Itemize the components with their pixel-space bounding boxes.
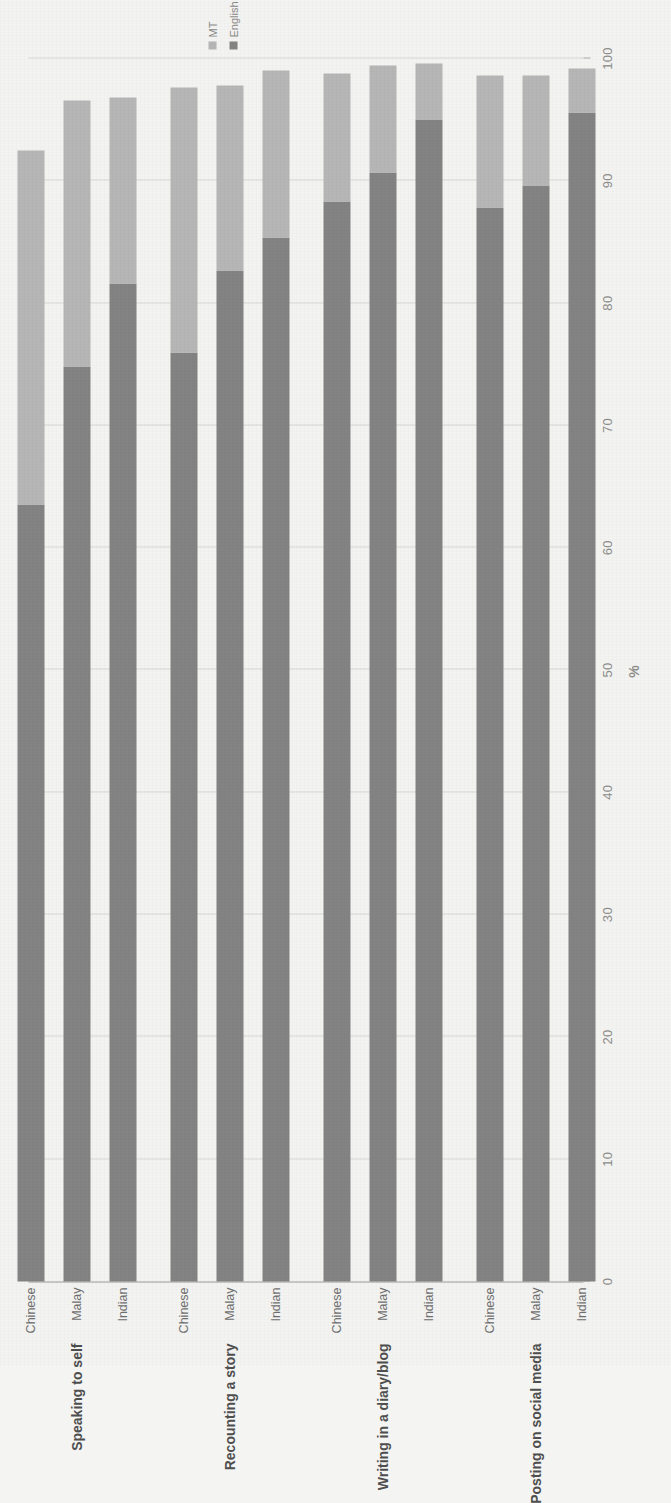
- category-label: Indian: [268, 1287, 282, 1321]
- legend-item-english[interactable]: English: [227, 1, 239, 49]
- x-axis-tick-label: 30: [599, 907, 614, 922]
- category-label: Chinese: [482, 1287, 496, 1333]
- bar-segment-english[interactable]: [568, 112, 595, 1281]
- bar-row[interactable]: [415, 58, 442, 1281]
- group-label: Speaking to self: [68, 1343, 84, 1450]
- square-swatch-icon: [208, 41, 216, 49]
- bar-segment-mt[interactable]: [216, 85, 243, 270]
- category-label: Chinese: [176, 1287, 190, 1333]
- group-label: Recounting a story: [221, 1343, 237, 1470]
- bar-segment-english[interactable]: [17, 504, 44, 1281]
- x-axis-tick-label: 10: [599, 1151, 614, 1166]
- bar-segment-mt[interactable]: [63, 100, 90, 367]
- bar-row[interactable]: [109, 58, 136, 1281]
- x-axis-tick-label: 20: [599, 1029, 614, 1044]
- bar-segment-mt[interactable]: [262, 70, 289, 236]
- category-label: Malay: [528, 1287, 542, 1320]
- bar-segment-english[interactable]: [63, 366, 90, 1281]
- x-axis-tick-label: 90: [599, 173, 614, 188]
- bar-segment-mt[interactable]: [415, 63, 442, 119]
- legend-label-english: English: [227, 1, 239, 37]
- bar-segment-english[interactable]: [476, 207, 503, 1281]
- bar-row[interactable]: [369, 58, 396, 1281]
- x-axis-title: %: [625, 60, 641, 1282]
- category-label: Malay: [375, 1287, 389, 1320]
- x-axis-tick-label: 80: [599, 295, 614, 310]
- bar-row[interactable]: [17, 58, 44, 1281]
- bar-row[interactable]: [216, 58, 243, 1281]
- square-swatch-icon: [229, 41, 237, 49]
- group-label: Posting on social media: [527, 1343, 543, 1503]
- category-label: Malay: [69, 1287, 83, 1320]
- legend-label-mt: MT: [206, 21, 218, 37]
- category-label: Indian: [421, 1287, 435, 1321]
- x-axis-tick-label: 40: [599, 784, 614, 799]
- category-label: Malay: [222, 1287, 236, 1320]
- bar-segment-english[interactable]: [216, 270, 243, 1281]
- category-label: Indian: [115, 1287, 129, 1321]
- bar-segment-english[interactable]: [109, 283, 136, 1281]
- bar-segment-english[interactable]: [415, 119, 442, 1281]
- bar-segment-mt[interactable]: [170, 87, 197, 351]
- bar-row[interactable]: [262, 58, 289, 1281]
- chart-legend: MT English: [206, 1, 239, 49]
- x-axis-tick-label: 100: [599, 47, 614, 70]
- bar-segment-mt[interactable]: [109, 97, 136, 283]
- bar-row[interactable]: [63, 58, 90, 1281]
- group-label: Writing in a diary/blog: [374, 1343, 390, 1490]
- bar-row[interactable]: [522, 58, 549, 1281]
- bar-segment-mt[interactable]: [522, 75, 549, 185]
- plot-area: 0102030405060708090100ChineseMalayIndian…: [28, 59, 583, 1282]
- bar-segment-english[interactable]: [170, 352, 197, 1281]
- bar-segment-mt[interactable]: [323, 73, 350, 201]
- x-axis-tick-label: 50: [599, 662, 614, 677]
- bar-segment-english[interactable]: [323, 201, 350, 1281]
- bar-segment-mt[interactable]: [369, 65, 396, 171]
- category-label: Indian: [574, 1287, 588, 1321]
- bar-segment-english[interactable]: [369, 172, 396, 1281]
- bar-row[interactable]: [476, 58, 503, 1281]
- legend-item-mt[interactable]: MT: [206, 1, 218, 49]
- x-axis-tick-label: 60: [599, 540, 614, 555]
- category-label: Chinese: [23, 1287, 37, 1333]
- bar-row[interactable]: [323, 58, 350, 1281]
- x-axis-tick-label: 0: [599, 1277, 614, 1285]
- bar-segment-english[interactable]: [262, 237, 289, 1281]
- bar-segment-mt[interactable]: [17, 150, 44, 505]
- bar-segment-mt[interactable]: [476, 75, 503, 207]
- bar-row[interactable]: [170, 58, 197, 1281]
- category-label: Chinese: [329, 1287, 343, 1333]
- bar-row[interactable]: [568, 58, 595, 1281]
- x-axis-tick-label: 70: [599, 417, 614, 432]
- bar-segment-english[interactable]: [522, 185, 549, 1281]
- bar-segment-mt[interactable]: [568, 68, 595, 112]
